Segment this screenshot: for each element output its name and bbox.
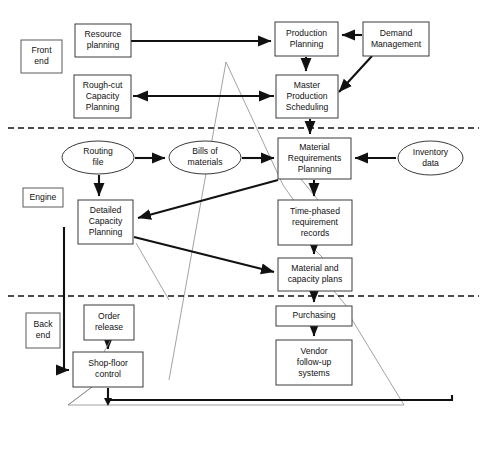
- node-purchasing[interactable]: Purchasing: [276, 306, 352, 326]
- node-production-planning[interactable]: ProductionPlanning: [275, 22, 338, 56]
- node-rough-cut-capacity-planning[interactable]: Rough-cutCapacityPlanning: [74, 75, 131, 118]
- node-inventory-data[interactable]: Inventorydata: [398, 141, 463, 175]
- diagram-canvas: ResourceplanningProductionPlanningDemand…: [0, 0, 487, 450]
- node-bills-of-materials[interactable]: Bills ofmaterials: [169, 141, 241, 174]
- node-demand-management[interactable]: DemandManagement: [363, 22, 429, 56]
- node-detailed-capacity-planning-label: DetailedCapacityPlanning: [89, 205, 123, 237]
- node-material-and-capacity-plans[interactable]: Material andcapacity plans: [278, 258, 352, 291]
- section-label-engine-label: Engine: [30, 192, 57, 202]
- arrow-feedback-entry-to-shop-floor-control: [64, 227, 69, 370]
- nodes-layer: ResourceplanningProductionPlanningDemand…: [62, 22, 463, 387]
- node-resource-planning-label: Resourceplanning: [85, 29, 122, 50]
- section-label-back-end: Backend: [26, 313, 60, 348]
- node-material-and-capacity-plans-label: Material andcapacity plans: [288, 263, 342, 284]
- section-label-front-end: Frontend: [21, 40, 62, 73]
- node-purchasing-label: Purchasing: [293, 310, 336, 320]
- section-label-engine: Engine: [23, 188, 63, 207]
- node-time-phased-requirement-records[interactable]: Time-phasedrequirementrecords: [278, 200, 352, 245]
- arrow-material-requirements-planning-to-detailed-capacity-planning: [138, 180, 278, 218]
- node-routing-file[interactable]: Routingfile: [62, 141, 134, 174]
- node-vendor-follow-up-systems-label: Vendorfollow-upsystems: [297, 346, 332, 378]
- node-order-release[interactable]: Orderrelease: [84, 305, 134, 340]
- node-vendor-follow-up-systems[interactable]: Vendorfollow-upsystems: [276, 340, 352, 385]
- node-production-planning-label: ProductionPlanning: [286, 28, 327, 49]
- node-detailed-capacity-planning[interactable]: DetailedCapacityPlanning: [78, 200, 133, 244]
- node-resource-planning[interactable]: Resourceplanning: [75, 24, 131, 57]
- section-labels-layer: FrontendEngineBackend: [21, 40, 63, 348]
- node-shop-floor-control[interactable]: Shop-floorcontrol: [73, 352, 143, 387]
- arrow-shop-floor-control-feedback-loop: [108, 388, 452, 400]
- node-rough-cut-capacity-planning-label: Rough-cutCapacityPlanning: [83, 80, 123, 112]
- node-material-requirements-planning[interactable]: MaterialRequirementsPlanning: [278, 138, 351, 179]
- mpc-system-diagram: ResourceplanningProductionPlanningDemand…: [0, 0, 487, 450]
- node-bills-of-materials-label: Bills ofmaterials: [188, 146, 223, 167]
- arrow-demand-management-to-master-production-scheduling: [339, 56, 372, 92]
- node-order-release-label: Orderrelease: [95, 311, 123, 332]
- node-master-production-scheduling[interactable]: MasterProductionScheduling: [276, 75, 338, 118]
- arrow-detailed-capacity-planning-to-material-and-capacity-plans: [134, 237, 274, 272]
